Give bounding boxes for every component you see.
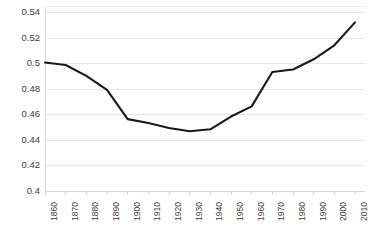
x-tick-label: 2000 bbox=[338, 202, 348, 221]
x-tick-label: 1960 bbox=[256, 202, 266, 221]
y-tick-label: 0.48 bbox=[22, 83, 41, 94]
x-tick-label: 1940 bbox=[214, 202, 224, 221]
x-tick-label: 1880 bbox=[90, 202, 100, 221]
x-tick-label: 1990 bbox=[318, 202, 328, 221]
y-tick-label: 0.54 bbox=[22, 6, 41, 17]
y-tick-label: 0.4 bbox=[27, 185, 40, 196]
x-tick-marks bbox=[45, 191, 355, 195]
x-tick-label: 1910 bbox=[152, 202, 162, 221]
x-tick-label: 2010 bbox=[359, 202, 369, 221]
x-tick-label: 1950 bbox=[235, 202, 245, 221]
x-tick-label: 1980 bbox=[297, 202, 307, 221]
x-tick-label: 1920 bbox=[173, 202, 183, 221]
gridlines bbox=[45, 7, 365, 166]
y-tick-label: 0.44 bbox=[22, 134, 41, 145]
x-tick-label: 1900 bbox=[132, 202, 142, 221]
y-tick-label: 0.52 bbox=[22, 32, 41, 43]
x-tick-label: 1970 bbox=[276, 202, 286, 221]
x-tick-label: 1930 bbox=[194, 202, 204, 221]
x-tick-label: 1870 bbox=[70, 202, 80, 221]
axis-lines bbox=[45, 7, 365, 192]
y-tick-label: 0.42 bbox=[22, 159, 41, 170]
x-tick-label: 1860 bbox=[49, 202, 59, 221]
x-tick-label: 1890 bbox=[111, 202, 121, 221]
y-tick-label: 0.5 bbox=[27, 57, 40, 68]
y-tick-label: 0.46 bbox=[22, 108, 41, 119]
